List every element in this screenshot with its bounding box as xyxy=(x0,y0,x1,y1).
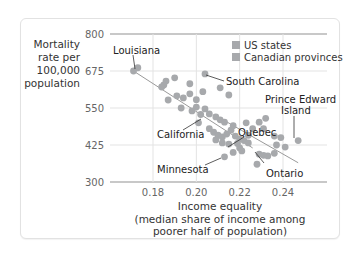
legend-swatch-us xyxy=(232,41,240,49)
legend: US states Canadian provinces xyxy=(232,40,343,63)
data-point xyxy=(202,71,209,78)
x-axis-label-line: poorer half of population) xyxy=(110,225,330,238)
data-point xyxy=(186,90,193,97)
annotation-california: California xyxy=(157,129,205,140)
annotation-quebec: Quebec xyxy=(238,127,276,138)
legend-label-canada: Canadian provinces xyxy=(244,52,343,63)
data-point xyxy=(197,111,204,118)
x-axis-ticks: 0.180.200.220.24 xyxy=(142,187,294,198)
annotation-pei-line2: Island xyxy=(281,105,311,116)
x-tick-label: 0.20 xyxy=(185,187,207,198)
y-tick-label: 800 xyxy=(85,29,104,40)
data-point xyxy=(212,137,219,144)
data-point xyxy=(193,96,200,103)
annotation-south-carolina: South Carolina xyxy=(226,76,299,87)
data-point xyxy=(230,149,237,156)
data-point xyxy=(158,84,165,91)
x-tick-label: 0.22 xyxy=(229,187,251,198)
data-point xyxy=(173,92,180,99)
data-point xyxy=(243,119,250,126)
data-point xyxy=(178,105,185,112)
annotation-louisiana: Louisiana xyxy=(113,45,160,56)
annotation-ontario: Ontario xyxy=(266,168,303,179)
x-axis-label-line: (median share of income among xyxy=(110,213,330,226)
data-point xyxy=(282,144,289,151)
y-axis-ticks: 300425550675800 xyxy=(85,29,104,188)
y-tick-label: 675 xyxy=(85,66,104,77)
data-point xyxy=(217,84,224,91)
data-point xyxy=(295,137,302,144)
data-point xyxy=(245,140,252,147)
data-point xyxy=(254,161,261,168)
data-point xyxy=(186,80,193,87)
x-tick-label: 0.24 xyxy=(272,187,294,198)
data-point xyxy=(256,119,263,126)
x-axis-label-line: Income equality xyxy=(110,200,330,213)
data-point xyxy=(262,115,269,122)
data-point xyxy=(225,92,232,99)
data-point xyxy=(180,95,187,102)
data-point xyxy=(221,119,228,126)
data-point xyxy=(171,74,178,81)
annotation-pei-line1: Prince Edward xyxy=(265,94,336,105)
y-tick-label: 550 xyxy=(85,103,104,114)
x-tick-label: 0.18 xyxy=(142,187,164,198)
x-axis-label: Income equality (median share of income … xyxy=(110,200,330,238)
data-point xyxy=(199,88,206,95)
data-point xyxy=(273,142,280,149)
annotation-minnesota: Minnesota xyxy=(157,164,209,175)
data-point xyxy=(260,152,267,159)
data-point xyxy=(206,111,213,118)
y-tick-label: 425 xyxy=(85,140,104,151)
data-point xyxy=(189,108,196,115)
data-point xyxy=(277,134,284,141)
data-point xyxy=(230,122,237,129)
data-point xyxy=(134,64,141,71)
data-point xyxy=(219,140,226,147)
y-tick-label: 300 xyxy=(85,177,104,188)
data-point xyxy=(238,148,245,155)
data-point xyxy=(165,97,172,104)
data-point xyxy=(221,153,228,160)
legend-swatch-canada xyxy=(232,53,240,61)
legend-label-us: US states xyxy=(244,40,291,51)
data-point xyxy=(271,150,278,157)
